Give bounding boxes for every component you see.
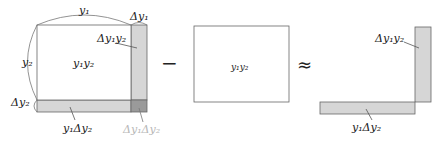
bottom-strip-label: y₁Δy₂ [62, 122, 92, 135]
width-label: y₁ [78, 4, 90, 17]
delta-height-label: Δy₂ [10, 96, 30, 109]
middle-figure: y₁y₂ [194, 26, 289, 102]
right-figure: Δy₁y₂ y₁Δy₂ [320, 27, 431, 134]
left-figure: y₁ Δy₁ Δy₁y₂ y₂ y₁y₂ Δy₂ y₁Δy₂ Δy₁Δy₂ [10, 4, 160, 136]
middle-rect-label: y₁y₂ [230, 62, 249, 72]
approx-operator: ≈ [297, 54, 312, 75]
main-rect-label: y₁y₂ [72, 57, 94, 70]
horizontal-strip-label: y₁Δy₂ [351, 121, 381, 134]
vertical-strip-label: Δy₁y₂ [374, 32, 404, 45]
delta-width-label: Δy₁ [129, 10, 149, 23]
minus-operator: − [161, 51, 178, 75]
vertical-strip [415, 27, 431, 102]
right-strip-label: Δy₁y₂ [96, 32, 126, 45]
corner-label: Δy₁Δy₂ [122, 123, 160, 136]
delta-height-brace [34, 100, 37, 112]
diagram: y₁ Δy₁ Δy₁y₂ y₂ y₁y₂ Δy₂ y₁Δy₂ Δy₁Δy₂ − … [0, 0, 444, 145]
right-strip [131, 25, 147, 100]
corner-square [131, 100, 147, 112]
height-label: y₂ [21, 56, 33, 69]
bottom-strip [37, 100, 131, 112]
